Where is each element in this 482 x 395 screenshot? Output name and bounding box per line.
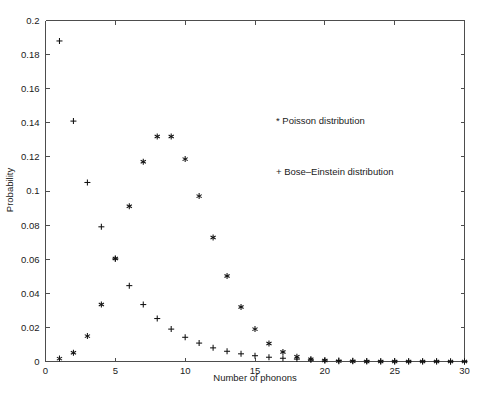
x-tick-label: 5 xyxy=(113,365,118,376)
y-tick-label: 0.14 xyxy=(21,117,40,128)
y-tick-label: 0.2 xyxy=(26,15,39,26)
y-tick-label: 0 xyxy=(34,356,39,367)
y-axis-title: Probability xyxy=(4,168,15,213)
probability-distribution-chart: 051015202530 00.020.040.060.080.10.120.1… xyxy=(0,0,482,395)
figure-container: 051015202530 00.020.040.060.080.10.120.1… xyxy=(0,0,482,395)
y-tick-label: 0.18 xyxy=(21,49,40,60)
y-tick-label: 0.02 xyxy=(21,322,40,333)
y-tick-label: 0.06 xyxy=(21,254,40,265)
y-tick-label: 0.12 xyxy=(21,151,40,162)
y-tick-label: 0.08 xyxy=(21,220,40,231)
figure-background xyxy=(0,0,482,395)
y-tick-label: 0.16 xyxy=(21,83,40,94)
y-tick-label: 0.04 xyxy=(21,288,40,299)
x-tick-label: 25 xyxy=(389,365,400,376)
x-tick-label: 0 xyxy=(43,365,48,376)
x-axis-title: Number of phonons xyxy=(213,372,297,383)
x-tick-label: 10 xyxy=(180,365,191,376)
legend-entry-bose-einstein: + Bose–Einstein distribution xyxy=(276,166,394,177)
x-tick-label: 30 xyxy=(459,365,470,376)
x-tick-label: 20 xyxy=(320,365,331,376)
y-tick-label: 0.1 xyxy=(26,185,39,196)
legend-entry-poisson: * Poisson distribution xyxy=(276,115,365,126)
